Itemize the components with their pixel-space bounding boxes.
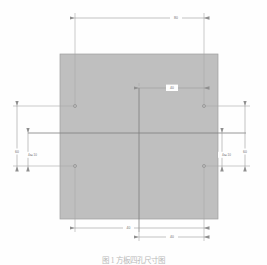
dim-left-hole-callout: 4x⌀10 — [24, 133, 41, 166]
dim-left-hole-callout-label: 4x⌀10 — [28, 153, 37, 157]
dim-top-hole-spacing-label: 80 — [174, 16, 178, 20]
dim-left-overall-height: 60 — [12, 106, 22, 166]
dim-bottom-right-span-label: 40 — [170, 235, 174, 239]
dim-bottom-left-span-label: 40 — [127, 226, 131, 230]
engineering-drawing-canvas: 80 40 40 40 60 — [0, 0, 267, 265]
dim-bottom-left-span: 40 — [75, 225, 204, 231]
dim-left-overall-height-label: 60 — [15, 150, 19, 154]
dim-top-hole-spacing: 80 — [75, 15, 204, 21]
dim-right-hole-callout-label: 4x⌀10 — [222, 153, 231, 157]
figure-caption: 图 1 方板四孔尺寸图 — [0, 254, 267, 265]
dim-right-overall-height-label: 60 — [243, 150, 247, 154]
drawing-sheet: 80 40 40 40 60 — [0, 0, 267, 265]
dim-center-to-right-hole-label: 40 — [170, 86, 174, 90]
dim-right-overall-height: 60 — [240, 106, 250, 166]
dim-bottom-right-span: 40 — [139, 234, 204, 240]
dim-right-hole-callout: 4x⌀10 — [218, 133, 235, 166]
